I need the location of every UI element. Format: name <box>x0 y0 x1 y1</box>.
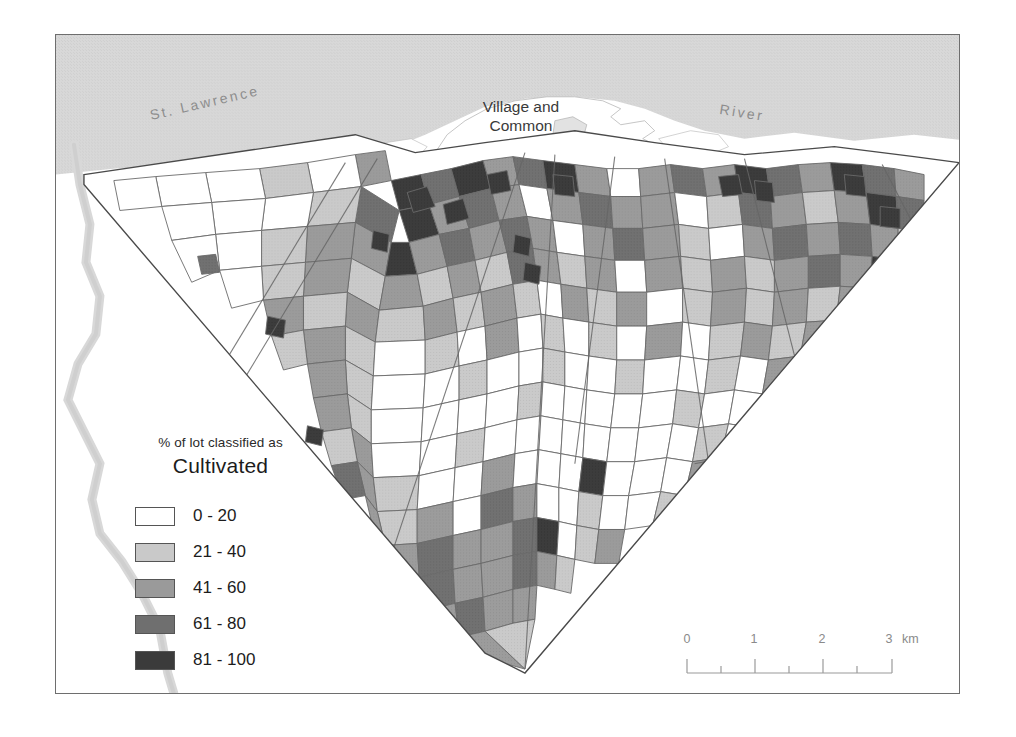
map-canvas <box>56 35 959 693</box>
map-frame: St. Lawrence River Village and Common <box>55 34 960 694</box>
map-page: St. Lawrence River Village and Common % … <box>0 0 1016 737</box>
